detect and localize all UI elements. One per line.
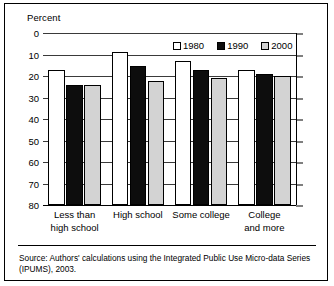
x-category-label-line2: high school [43,222,106,235]
y-tick-label-70: 10 [28,50,39,61]
y-tick-mark-right-20 [296,163,303,164]
y-tick-mark-right-50 [296,98,303,99]
y-tick-label-60: 20 [28,71,39,82]
x-category-label-line1: Some college [170,209,233,222]
y-tick-label-0: 80 [28,200,39,211]
bar-2000-1 [84,85,101,205]
source-divider [18,245,316,246]
y-tick-label-80: 0 [34,28,39,39]
x-category-label-line1: High school [106,209,169,222]
y-tick-label-30: 50 [28,136,39,147]
y-tick-label-20: 60 [28,157,39,168]
x-axis-category-labels: Less thanhigh schoolHigh schoolSome coll… [43,209,296,243]
bar-2000-3 [211,78,228,205]
bar-group [175,33,228,205]
x-category-label-3: Some college [170,209,233,222]
figure-panel: Percent 1980 1990 2000 80706050403020100… [4,3,328,281]
y-axis-title: Percent [27,12,60,23]
x-category-label-2: High school [106,209,169,222]
bar-group [238,33,291,205]
plot-area: 80706050403020100 [43,33,296,205]
x-category-label-line1: Less than [43,209,106,222]
bar-group [48,33,101,205]
y-tick-mark-right-0 [296,206,303,207]
y-tick-mark-right-30 [296,141,303,142]
bar-1990-4 [256,74,273,205]
x-category-label-1: Less thanhigh school [43,209,106,234]
x-category-label-4: Collegeand more [233,209,296,234]
source-note: Source: Authors' calculations using the … [19,253,315,275]
y-tick-mark-right-80 [296,34,303,35]
bar-1980-4 [238,70,255,205]
y-tick-mark-right-40 [296,120,303,121]
bar-2000-4 [274,76,291,205]
y-tick-mark-right-60 [296,77,303,78]
x-category-label-line1: College [233,209,296,222]
y-tick-label-10: 70 [28,179,39,190]
y-tick-label-50: 30 [28,93,39,104]
bar-1980-3 [175,61,192,205]
x-category-label-line2: and more [233,222,296,235]
bar-2000-2 [148,81,165,205]
bar-1980-2 [112,52,129,205]
bar-1990-2 [130,66,147,205]
bar-group [112,33,165,205]
gridline-0: 80 [43,205,296,206]
y-tick-mark-right-70 [296,55,303,56]
y-tick-mark-right-10 [296,184,303,185]
bar-1980-1 [48,70,65,205]
bar-1990-3 [193,70,210,205]
right-axis-spine [296,33,297,205]
bar-1990-1 [66,85,83,205]
y-tick-label-40: 40 [28,114,39,125]
